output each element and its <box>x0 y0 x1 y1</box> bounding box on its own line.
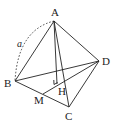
vertex-label-A: A <box>51 6 59 18</box>
point-label-M: M <box>34 94 44 106</box>
vertex-label-D: D <box>102 55 110 67</box>
point-label-H: H <box>58 85 66 97</box>
vertex-label-C: C <box>65 110 72 122</box>
segment-DM <box>43 61 99 94</box>
edge-length-label: a <box>17 38 22 49</box>
edge-AB <box>15 21 54 81</box>
edge-CD <box>69 61 99 107</box>
edge-AD <box>54 21 99 61</box>
vertex-label-B: B <box>4 77 11 89</box>
tetrahedron-diagram: a A B C D M H <box>0 0 121 123</box>
